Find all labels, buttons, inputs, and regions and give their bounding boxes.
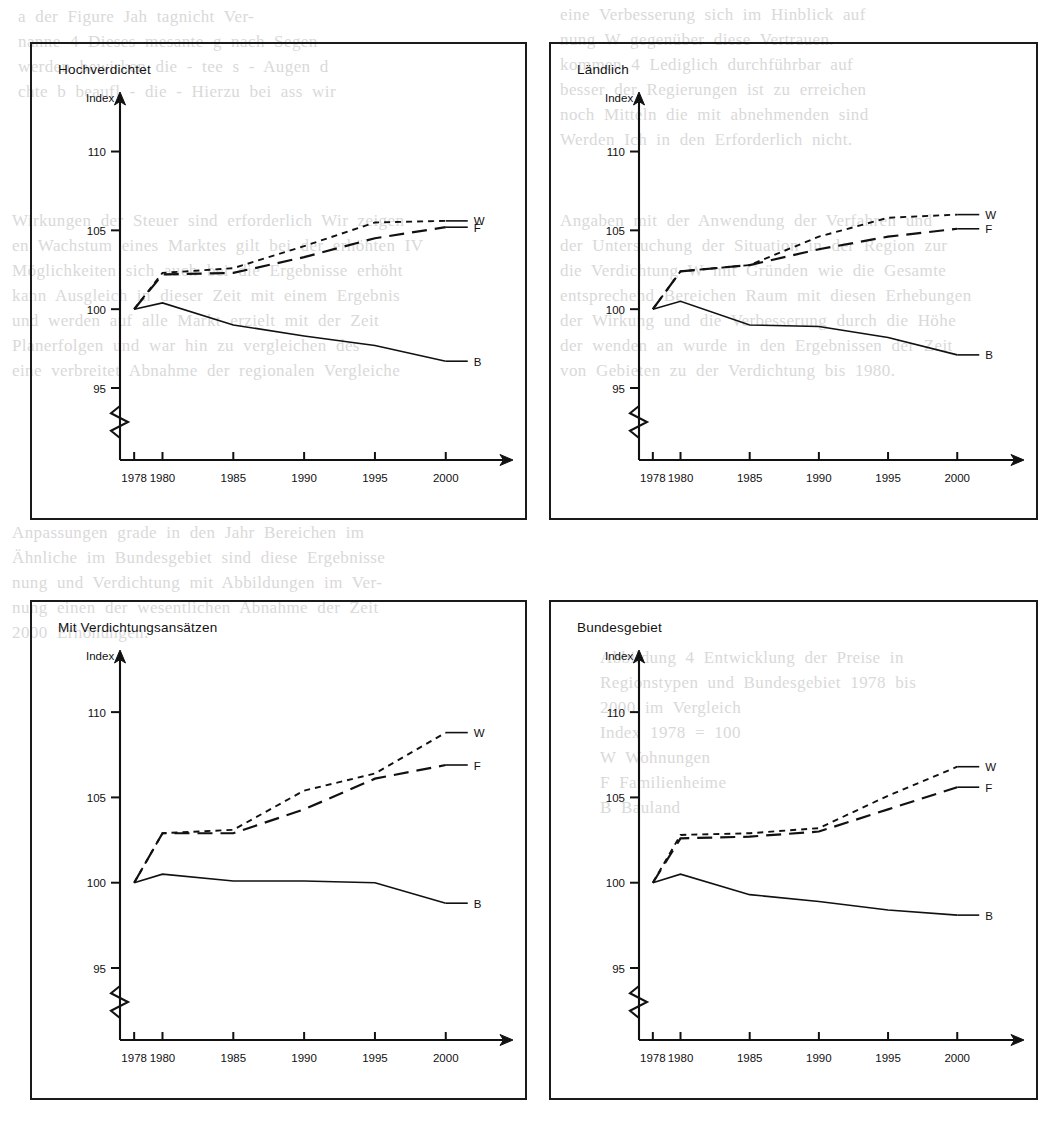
chart-panel-laendlich: Ländlich Index 1101051009519781980198519… (549, 42, 1038, 520)
svg-text:1985: 1985 (221, 472, 247, 484)
svg-text:105: 105 (606, 225, 625, 237)
svg-text:F: F (985, 782, 992, 794)
svg-text:1980: 1980 (150, 1052, 176, 1064)
svg-text:1978: 1978 (121, 472, 147, 484)
svg-text:95: 95 (93, 383, 106, 395)
svg-text:1995: 1995 (875, 1052, 901, 1064)
svg-text:B: B (474, 356, 482, 368)
svg-text:1978: 1978 (640, 472, 666, 484)
svg-text:2000: 2000 (433, 472, 459, 484)
svg-text:1990: 1990 (291, 1052, 317, 1064)
svg-text:1980: 1980 (668, 472, 694, 484)
svg-text:1980: 1980 (150, 472, 176, 484)
svg-text:F: F (474, 222, 481, 234)
svg-text:2000: 2000 (944, 1052, 970, 1064)
chart-panel-hochverdichtet: Hochverdichtet Index 1101051009519781980… (30, 42, 527, 520)
svg-text:95: 95 (612, 383, 625, 395)
svg-text:110: 110 (607, 146, 625, 158)
svg-text:1995: 1995 (875, 472, 901, 484)
svg-text:1985: 1985 (737, 472, 763, 484)
svg-text:2000: 2000 (944, 472, 970, 484)
svg-text:B: B (474, 898, 482, 910)
svg-text:100: 100 (87, 304, 106, 316)
svg-text:110: 110 (607, 707, 625, 719)
svg-text:1990: 1990 (806, 1052, 832, 1064)
svg-text:1985: 1985 (737, 1052, 763, 1064)
svg-text:1980: 1980 (668, 1052, 694, 1064)
svg-text:W: W (985, 761, 996, 773)
chart-grid: Hochverdichtet Index 1101051009519781980… (0, 0, 1061, 1138)
svg-text:F: F (985, 223, 992, 235)
svg-text:B: B (985, 910, 993, 922)
svg-text:1990: 1990 (291, 472, 317, 484)
plot-area-3: 11010510095197819801985199019952000WFB (551, 602, 1036, 1098)
svg-text:105: 105 (87, 792, 106, 804)
svg-text:100: 100 (606, 877, 625, 889)
plot-area-1: 11010510095197819801985199019952000WFB (551, 44, 1036, 518)
chart-panel-mit-verdichtungsansaetzen: Mit Verdichtungsansätzen Index 110105100… (30, 600, 527, 1100)
svg-text:100: 100 (606, 304, 625, 316)
svg-text:100: 100 (87, 877, 106, 889)
chart-panel-bundesgebiet: Bundesgebiet Index 110105100951978198019… (549, 600, 1038, 1100)
svg-text:95: 95 (93, 963, 106, 975)
svg-text:W: W (474, 727, 485, 739)
plot-area-2: 11010510095197819801985199019952000WFB (32, 602, 525, 1098)
svg-text:B: B (985, 349, 993, 361)
svg-text:F: F (474, 760, 481, 772)
svg-text:110: 110 (88, 146, 106, 158)
svg-text:2000: 2000 (433, 1052, 459, 1064)
svg-text:W: W (985, 209, 996, 221)
svg-text:1995: 1995 (362, 1052, 388, 1064)
svg-text:105: 105 (87, 225, 106, 237)
svg-text:1978: 1978 (121, 1052, 147, 1064)
svg-text:1990: 1990 (806, 472, 832, 484)
svg-text:105: 105 (606, 792, 625, 804)
svg-text:1995: 1995 (362, 472, 388, 484)
svg-text:110: 110 (88, 707, 106, 719)
svg-text:1985: 1985 (221, 1052, 247, 1064)
svg-text:1978: 1978 (640, 1052, 666, 1064)
plot-area-0: 11010510095197819801985199019952000WFB (32, 44, 525, 518)
svg-text:95: 95 (612, 963, 625, 975)
